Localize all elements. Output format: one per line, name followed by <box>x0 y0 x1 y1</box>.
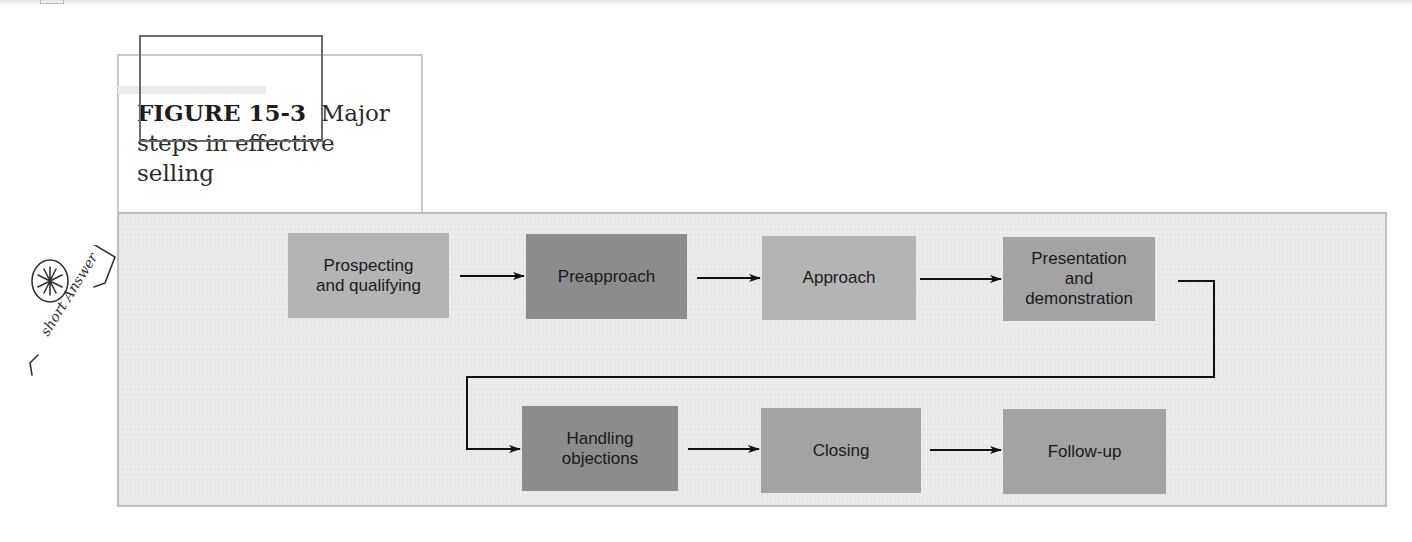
asterisk-icon <box>38 267 62 295</box>
handwritten-note: short Answer <box>37 249 101 339</box>
flow-arrows <box>0 0 1412 542</box>
arrow-wrap <box>467 281 1214 449</box>
handwritten-annotation: short Answer <box>8 245 118 395</box>
